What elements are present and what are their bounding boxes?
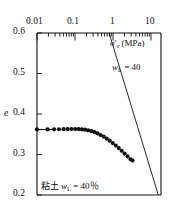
x-axis-label: σ′v (MPa) xyxy=(110,39,145,48)
y-tick-label-2: 0.4 xyxy=(13,108,25,118)
y-tick-label-4: 0.2 xyxy=(13,189,25,199)
x-tick-label-3: 10 xyxy=(145,17,155,27)
plot-frame xyxy=(37,33,161,195)
nc-line xyxy=(109,33,158,195)
y-axis-ticks xyxy=(37,33,42,195)
x-axis-label-unit: (MPa) xyxy=(119,38,144,48)
nc-line-subscript: L xyxy=(118,66,122,73)
x-tick-label-1: 0.1 xyxy=(67,17,79,27)
specimen-annotation: 粘土wL = 40％ xyxy=(41,182,99,191)
y-tick-label-1: 0.5 xyxy=(13,68,25,78)
figure-void-ratio-vs-effective-stress: 0.01 0.1 1 10 0.6 0.5 0.4 0.3 0.2 e σ′v … xyxy=(0,0,176,217)
specimen-subscript: L xyxy=(67,185,71,192)
nc-line-annotation: wL = 40 xyxy=(112,63,141,72)
specimen-material-label: 粘土 xyxy=(41,181,59,191)
specimen-value: = 40％ xyxy=(71,181,99,191)
y-axis-label: e xyxy=(4,109,8,119)
data-point xyxy=(62,127,66,131)
x-tick-label-0: 0.01 xyxy=(26,17,43,27)
y-tick-label-0: 0.6 xyxy=(13,27,25,37)
x-tick-label-2: 1 xyxy=(110,17,115,27)
data-point xyxy=(130,158,134,162)
data-point xyxy=(57,127,61,131)
y-tick-label-3: 0.3 xyxy=(13,149,25,159)
nc-line-value: = 40 xyxy=(122,62,141,72)
data-point xyxy=(35,127,39,131)
x-axis-label-subscript: v xyxy=(116,42,119,49)
data-point xyxy=(66,127,70,131)
data-point xyxy=(45,127,49,131)
data-point xyxy=(52,127,56,131)
data-point xyxy=(69,127,73,131)
data-point-group xyxy=(35,127,135,163)
